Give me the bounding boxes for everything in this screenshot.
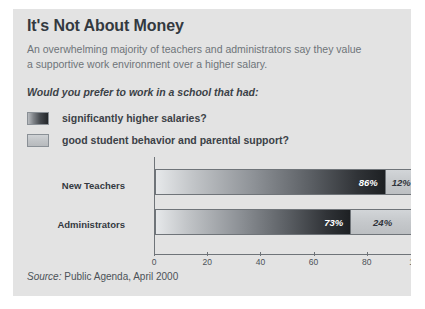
x-axis-tick xyxy=(154,252,155,256)
bar-value-label: 24% xyxy=(373,217,392,228)
x-axis-tick xyxy=(367,252,368,256)
category-label-administrators: Administrators xyxy=(13,219,125,231)
x-axis-tick-label: 60 xyxy=(309,257,318,267)
chart-plot-area: New Teachers Administrators 86% 12% 73% … xyxy=(27,157,397,257)
chart-legend: significantly higher salaries? good stud… xyxy=(27,108,397,152)
legend-swatch-icon-behavior xyxy=(27,134,49,147)
x-axis-line xyxy=(154,254,411,255)
source-label: Source: xyxy=(27,271,61,282)
x-axis-tick-label: 100% xyxy=(409,257,411,267)
bar-segment-salaries: 86% xyxy=(156,170,385,194)
figure-question: Would you prefer to work in a school tha… xyxy=(27,86,258,98)
x-axis-tick-label: 80 xyxy=(362,257,371,267)
category-label-new-teachers: New Teachers xyxy=(13,180,125,192)
page-title: It's Not About Money xyxy=(27,17,184,35)
figure-panel: It's Not About Money An overwhelming maj… xyxy=(13,9,411,296)
bar-value-label: 12% xyxy=(392,177,411,188)
bar-value-label: 73% xyxy=(324,217,350,228)
bar-segment-behavior: 24% xyxy=(350,210,411,234)
legend-item-behavior: good student behavior and parental suppo… xyxy=(27,130,397,150)
x-axis-tick xyxy=(260,252,261,256)
table-row: 73% 24% xyxy=(155,209,411,235)
bar-segment-salaries: 73% xyxy=(156,210,350,234)
x-axis-tick-label: 40 xyxy=(256,257,265,267)
figure-source: Source: Public Agenda, April 2000 xyxy=(27,271,178,282)
legend-label-behavior: good student behavior and parental suppo… xyxy=(62,134,289,146)
bar-value-label: 86% xyxy=(359,177,385,188)
x-axis-tick-label: 20 xyxy=(202,257,211,267)
bar-segment-behavior: 12% xyxy=(385,170,411,194)
figure-subtitle: An overwhelming majority of teachers and… xyxy=(27,42,367,71)
x-axis-tick xyxy=(207,252,208,256)
x-axis-tick xyxy=(314,252,315,256)
legend-item-salaries: significantly higher salaries? xyxy=(27,108,397,128)
legend-label-salaries: significantly higher salaries? xyxy=(62,112,207,124)
source-text: Public Agenda, April 2000 xyxy=(61,271,178,282)
legend-swatch-icon-salaries xyxy=(27,112,49,125)
table-row: 86% 12% xyxy=(155,169,411,195)
x-axis-tick-label: 0 xyxy=(152,257,157,267)
